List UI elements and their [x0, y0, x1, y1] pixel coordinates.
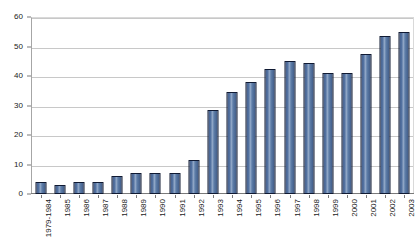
bar-slot	[203, 17, 222, 194]
x-tick-mark	[385, 195, 386, 198]
bar-slot	[318, 17, 337, 194]
x-tick-mark	[213, 195, 214, 198]
x-tick-mark	[270, 195, 271, 198]
x-tick-mark	[41, 195, 42, 198]
bar[interactable]	[361, 54, 372, 194]
x-tick-slot: 1991	[165, 195, 184, 238]
bar[interactable]	[169, 173, 180, 194]
bar-slot	[88, 17, 107, 194]
x-tick-slot: 1993	[203, 195, 222, 238]
bar[interactable]	[93, 182, 104, 194]
bars-layer	[31, 17, 414, 194]
x-tick-mark	[98, 195, 99, 198]
y-tick-label: 30	[14, 102, 23, 110]
bar-slot	[280, 17, 299, 194]
x-tick-mark	[136, 195, 137, 198]
x-tick-mark	[347, 195, 348, 198]
y-axis: 0102030405060	[0, 0, 31, 238]
x-tick-mark	[328, 195, 329, 198]
x-tick-slot: 2002	[376, 195, 395, 238]
x-tick-slot: 1986	[69, 195, 88, 238]
bar[interactable]	[341, 73, 352, 194]
x-tick-mark	[60, 195, 61, 198]
x-tick-slot: 1998	[299, 195, 318, 238]
x-tick-mark	[309, 195, 310, 198]
bar[interactable]	[150, 173, 161, 194]
x-tick-slot: 1997	[280, 195, 299, 238]
bar-slot	[223, 17, 242, 194]
x-tick-mark	[117, 195, 118, 198]
bar[interactable]	[380, 36, 391, 194]
x-tick-mark	[155, 195, 156, 198]
x-tick-slot: 1994	[223, 195, 242, 238]
x-tick-slot: 2001	[357, 195, 376, 238]
bar-slot	[31, 17, 50, 194]
bar-chart: 0102030405060 1979-198419851986198719881…	[0, 0, 416, 238]
x-tick-slot: 2000	[337, 195, 356, 238]
bar[interactable]	[303, 63, 314, 194]
bar[interactable]	[35, 182, 46, 194]
y-tick-label: 0	[19, 190, 23, 198]
bar-slot	[50, 17, 69, 194]
bar[interactable]	[188, 160, 199, 194]
bar-slot	[261, 17, 280, 194]
bar-slot	[108, 17, 127, 194]
bar[interactable]	[207, 110, 218, 194]
x-tick-slot: 1999	[318, 195, 337, 238]
bar-slot	[242, 17, 261, 194]
bar-slot	[146, 17, 165, 194]
bar[interactable]	[227, 92, 238, 194]
bar[interactable]	[73, 182, 84, 194]
x-tick-slot: 1979-1984	[31, 195, 50, 238]
x-tick-mark	[290, 195, 291, 198]
x-tick-mark	[251, 195, 252, 198]
bar[interactable]	[399, 32, 410, 194]
bar-slot	[184, 17, 203, 194]
bar[interactable]	[284, 61, 295, 194]
x-tick-mark	[404, 195, 405, 198]
y-tick-label: 20	[14, 131, 23, 139]
bar[interactable]	[54, 185, 65, 194]
x-tick-label: 2003	[408, 199, 416, 217]
x-tick-mark	[79, 195, 80, 198]
x-tick-slot: 1987	[88, 195, 107, 238]
x-tick-slot: 2003	[395, 195, 414, 238]
y-tick-label: 10	[14, 161, 23, 169]
x-tick-slot: 1992	[184, 195, 203, 238]
bar-slot	[357, 17, 376, 194]
bar-slot	[69, 17, 88, 194]
bar[interactable]	[112, 176, 123, 194]
y-tick-label: 50	[14, 43, 23, 51]
x-tick-slot: 1988	[108, 195, 127, 238]
bar[interactable]	[322, 73, 333, 194]
x-tick-mark	[175, 195, 176, 198]
bar[interactable]	[131, 173, 142, 194]
bar-slot	[299, 17, 318, 194]
bar-slot	[337, 17, 356, 194]
bar-slot	[395, 17, 414, 194]
x-tick-slot: 1995	[242, 195, 261, 238]
bar-slot	[165, 17, 184, 194]
x-tick-mark	[232, 195, 233, 198]
x-tick-mark	[194, 195, 195, 198]
x-tick-slot: 1996	[261, 195, 280, 238]
x-axis: 1979-19841985198619871988198919901991199…	[31, 195, 414, 238]
bar[interactable]	[246, 82, 257, 194]
x-tick-mark	[366, 195, 367, 198]
bar-slot	[127, 17, 146, 194]
x-tick-slot: 1985	[50, 195, 69, 238]
y-tick-label: 60	[14, 13, 23, 21]
x-tick-slot: 1989	[127, 195, 146, 238]
bar-slot	[376, 17, 395, 194]
bar[interactable]	[265, 69, 276, 194]
x-tick-slot: 1990	[146, 195, 165, 238]
y-tick-label: 40	[14, 72, 23, 80]
